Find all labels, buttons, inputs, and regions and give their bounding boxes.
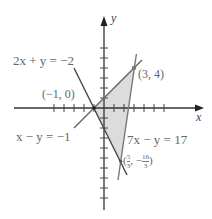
y-axis-label: y [111,12,116,24]
fraction-y-den: 3 [142,162,149,170]
equation-label-1: 2x + y = −2 [13,54,74,67]
vertex-label-suffix: ) [149,154,153,166]
vertex-label-3-4: (3, 4) [138,68,164,80]
x-axis-label: x [196,111,201,123]
vertex-label-5-3: (53, −163) [123,153,153,170]
y-axis-arrow-icon [101,16,108,26]
vertex-label-sep: , − [130,154,142,166]
equation-label-2: x − y = −1 [16,130,71,143]
vertex-point-neg1-0 [92,106,96,110]
vertex-point-5-3 [119,160,122,163]
plot-svg [0,0,212,219]
diagram-canvas: y x 2x + y = −2 x − y = −1 7x − y = 17 (… [0,0,212,219]
equation-label-3: 7x − y = 17 [127,133,187,146]
fraction-y-num: 16 [142,153,149,162]
vertex-point-3-4 [132,66,136,70]
fraction-y: 163 [142,153,149,170]
vertex-label-neg1-0: (−1, 0) [42,88,75,100]
